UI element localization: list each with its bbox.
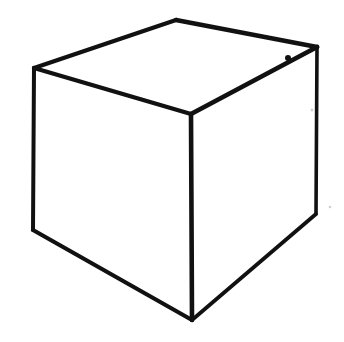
left-vertical-edge: [33, 68, 34, 230]
cube-figure: [0, 0, 344, 342]
right-vertical-edge: [316, 47, 317, 214]
paper-speck-lower-right-icon: [329, 206, 332, 209]
paper-speck-right-icon: [311, 109, 314, 112]
center-vertical-edge: [191, 114, 192, 320]
ink-kink-top-right-icon: [285, 55, 291, 61]
cube-drawing-canvas: [0, 0, 344, 342]
